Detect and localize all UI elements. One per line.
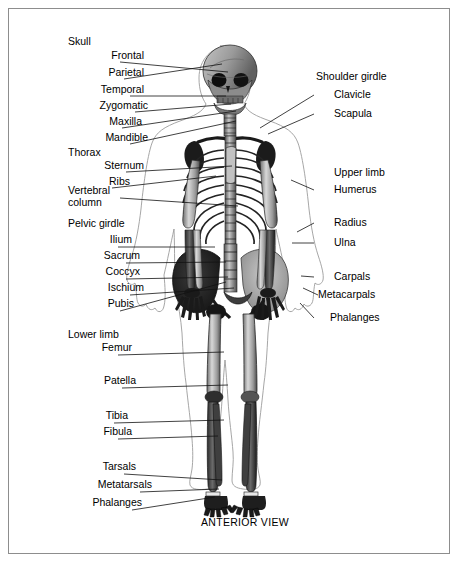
sternum	[226, 147, 236, 184]
label-tarsals: Tarsals	[40, 460, 136, 472]
label-scapula: Scapula	[334, 107, 372, 119]
group-header-skull: Skull	[68, 35, 91, 47]
label-carpals: Carpals	[334, 270, 370, 282]
label-metacarpals: Metacarpals	[318, 288, 375, 300]
label-parietal: Parietal	[48, 66, 144, 78]
label-femur: Femur	[44, 341, 132, 353]
label-phalanges-hand: Phalanges	[330, 311, 380, 323]
group-header-upper-limb: Upper limb	[334, 166, 385, 178]
label-sacrum: Sacrum	[48, 249, 140, 261]
label-patella: Patella	[44, 374, 136, 386]
label-mandible: Mandible	[44, 131, 148, 143]
skull-group	[203, 45, 257, 115]
label-sternum: Sternum	[44, 159, 144, 171]
group-header-vertebral-line1: Vertebral	[68, 184, 110, 196]
group-header-thorax: Thorax	[68, 146, 101, 158]
group-header-vertebral-line2: column	[68, 196, 102, 208]
group-header-lower-limb: Lower limb	[68, 328, 119, 340]
figure-caption: ANTERIOR VIEW	[201, 516, 289, 528]
group-header-pelvic-girdle: Pelvic girdle	[68, 217, 125, 229]
label-ilium: Ilium	[48, 233, 132, 245]
label-clavicle: Clavicle	[334, 88, 371, 100]
label-ischium: Ischium	[48, 281, 144, 293]
label-pubis: Pubis	[48, 297, 134, 309]
lumbar-spine	[224, 244, 237, 292]
label-metatarsals: Metatarsals	[36, 478, 152, 490]
label-humerus: Humerus	[334, 183, 377, 195]
label-phalanges-foot: Phalanges	[36, 496, 142, 508]
label-temporal: Temporal	[44, 83, 144, 95]
label-radius: Radius	[334, 216, 367, 228]
cervical-spine	[224, 114, 236, 136]
label-maxilla: Maxilla	[44, 115, 142, 127]
label-zygomatic: Zygomatic	[40, 99, 148, 111]
label-ulna: Ulna	[334, 236, 356, 248]
label-tibia: Tibia	[44, 409, 128, 421]
label-frontal: Frontal	[48, 49, 144, 61]
label-coccyx: Coccyx	[48, 265, 140, 277]
skeleton-figure: Skull Frontal Parietal Temporal Zygomati…	[0, 0, 460, 564]
group-header-shoulder-girdle: Shoulder girdle	[316, 70, 387, 82]
label-fibula: Fibula	[44, 425, 132, 437]
